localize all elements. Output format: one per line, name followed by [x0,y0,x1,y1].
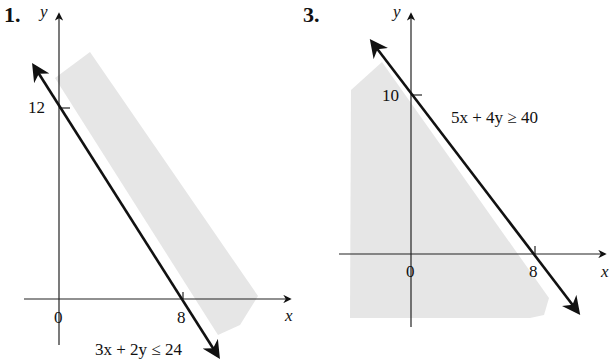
graphs-canvas [0,0,609,362]
inequality-label-3: 5x + 4y ≥ 40 [451,108,538,128]
x-intercept-label-1: 8 [177,308,186,328]
y-axis-label-1: y [40,2,48,22]
y-intercept-label-3: 10 [382,86,399,106]
inequality-label-1: 3x + 2y ≤ 24 [95,340,182,360]
x-axis-label-3: x [601,262,609,282]
x-intercept-label-3: 8 [529,262,538,282]
x-axis-label-1: x [285,306,293,326]
y-intercept-label-1: 12 [28,98,45,118]
y-axis-label-3: y [393,2,401,22]
problem-number-1: 1. [4,2,21,28]
shaded-region-3 [350,62,549,318]
origin-label-3: 0 [406,262,415,282]
problem-number-3: 3. [303,2,320,28]
origin-label-1: 0 [54,308,63,328]
shaded-region-1 [55,52,258,335]
